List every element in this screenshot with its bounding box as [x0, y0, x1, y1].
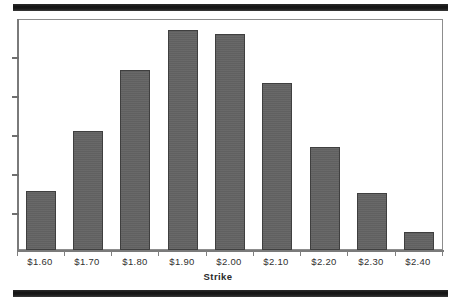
bar-chart-figure: $1.60 $1.70 $1.80 $1.90 $2.00 $2.10 $2.2…: [0, 0, 460, 303]
x-axis-title: Strike: [0, 271, 436, 282]
bar-series-item[interactable]: [26, 191, 56, 250]
bar-series-item[interactable]: [357, 193, 387, 250]
bar-series-item[interactable]: [310, 147, 340, 250]
bar-series-item[interactable]: [404, 232, 434, 250]
bar-series-item[interactable]: [120, 70, 150, 250]
bar-series-item[interactable]: [168, 30, 198, 250]
x-axis-label: $2.40: [386, 256, 450, 267]
bar-series-item[interactable]: [215, 34, 245, 250]
bar-series-item[interactable]: [262, 83, 292, 250]
bar-series-item[interactable]: [73, 131, 103, 250]
